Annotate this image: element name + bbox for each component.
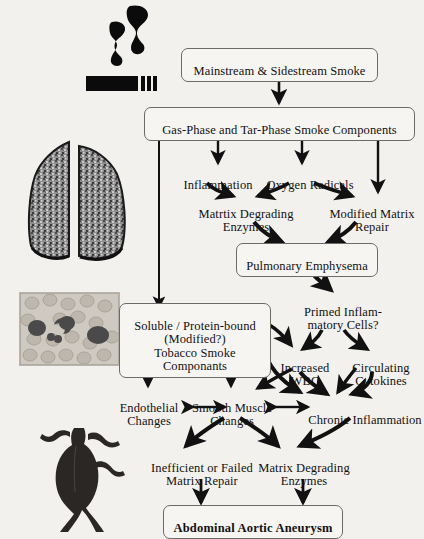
node-matrix-degrading-enzymes-aorta: Matrix Degrading Enzymes [248,448,360,489]
node-label: Gas-Phase and Tar-Phase Smoke Components [162,123,397,137]
node-label: Soluble / Protein-bound (Modified?) Toba… [134,319,256,374]
node-inflammation: Inflammation [168,165,268,192]
node-label: Primed Inflam- matory Cells? [304,305,382,333]
node-smoke-source: Mainstream & Sidestream Smoke [181,48,378,82]
node-oxygen-radicals: Oxygen Radicals [255,165,365,192]
node-endothelial-changes: Endothelial Changes [110,388,188,429]
node-circulating-cytokines: Circulating Cytokines [341,348,421,389]
node-label: Modified Matrix Repair [329,207,414,235]
node-matrix-degrading-enzymes-lung: Matrtix Degrading Enzymes [184,194,308,235]
node-label: Matrtix Degrading Enzymes [198,207,293,235]
node-label: Increased WBC [281,361,330,389]
node-label: Smooth Muscle Changes [192,401,272,429]
node-label: Circulating Cytokines [352,361,409,389]
node-pulmonary-emphysema: Pulmonary Emphysema [236,243,378,277]
node-smooth-muscle-changes: Smooth Muscle Changes [182,388,282,429]
node-label: Chronic Inflammation [308,413,421,427]
node-label: Inefficient or Failed Matrix Repair [151,461,253,489]
node-label: Mainstream & Sidestream Smoke [194,64,366,78]
node-label: Matrix Degrading Enzymes [258,461,350,489]
node-soluble-smoke-components: Soluble / Protein-bound (Modified?) Toba… [119,303,271,378]
node-modified-matrix-repair: Modified Matrix Repair [320,194,424,235]
node-increased-wbc: Increased WBC [266,348,344,389]
node-smoke-components: Gas-Phase and Tar-Phase Smoke Components [144,107,415,141]
node-label: Oxygen Radicals [266,178,353,192]
node-label: Inflammation [183,178,252,192]
node-chronic-inflammation: Chronic Inflammation [305,400,424,427]
node-label: Abdominal Aortic Aneurysm [173,521,332,535]
node-label: Pulmonary Emphysema [246,259,368,273]
node-outcome-aaa: Abdominal Aortic Aneurysm [163,505,343,539]
node-primed-inflammatory-cells: Primed Inflam- matory Cells? [285,292,401,333]
node-label: Endothelial Changes [120,401,179,429]
